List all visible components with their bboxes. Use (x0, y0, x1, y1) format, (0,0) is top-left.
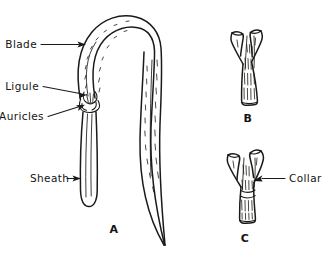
blade-stipple-left (85, 21, 129, 88)
label-sheath-text: Sheath (30, 172, 69, 184)
figure-letter-a: A (109, 223, 118, 236)
label-auricles-text: Auricles (0, 110, 44, 122)
figure-a-group: A (78, 16, 165, 246)
label-collar-text: Collar (289, 172, 322, 184)
sheath-shape (80, 112, 97, 207)
label-auricles-group: Auricles (0, 105, 85, 122)
label-auricles-arrowhead (76, 105, 85, 111)
label-collar-group: Collar (253, 172, 322, 184)
figure-b-group: B (231, 30, 262, 125)
grass-leaf-anatomy-illustration: A (0, 0, 326, 255)
collar-band (240, 190, 255, 198)
label-blade-text: Blade (5, 38, 37, 50)
figure-c-group: C (227, 150, 263, 245)
figure-canvas: A (0, 0, 326, 255)
label-blade-group: Blade (5, 38, 86, 50)
blade-stipple-midrib (99, 31, 127, 92)
label-auricles-leader (48, 107, 78, 117)
blade-stipple-descending (155, 60, 159, 178)
label-ligule-text: Ligule (5, 80, 39, 92)
figure-letter-b: B (244, 112, 253, 125)
figure-letter-c: C (241, 232, 250, 245)
label-sheath-group: Sheath (30, 172, 81, 184)
label-ligule-leader (43, 87, 80, 94)
label-ligule-group: Ligule (5, 80, 87, 99)
